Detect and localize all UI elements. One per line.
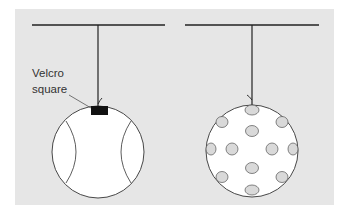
velcro-label-line1: Velcro — [32, 67, 64, 79]
velcro-leader-line — [69, 95, 91, 108]
right-pendulum — [185, 25, 319, 197]
pendulum-diagram: Velcro square — [0, 0, 347, 216]
left-pendulum: Velcro square — [32, 25, 165, 198]
velcro-label-line2: square — [32, 83, 67, 95]
tennis-ball — [52, 106, 144, 198]
velcro-square — [91, 106, 108, 115]
